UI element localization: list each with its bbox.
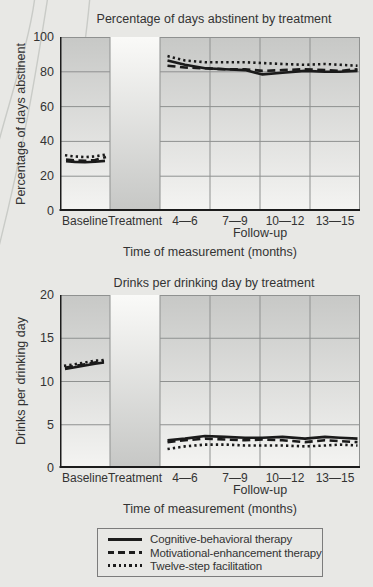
figure: Percentage of days abstinent by treatmen…	[0, 0, 373, 587]
y-tick-label: 0	[0, 461, 54, 475]
y-tick-label: 5	[0, 418, 54, 432]
y-tick-label: 20	[0, 169, 54, 183]
legend-label: Twelve-step facilitation	[150, 560, 262, 572]
y-tick-label: 60	[0, 100, 54, 114]
y-tick-label: 0	[0, 204, 54, 218]
y-tick-label: 80	[0, 65, 54, 79]
legend-item: Motivational-enhancement therapy	[108, 547, 322, 559]
y-tick-label: 100	[0, 30, 54, 44]
dotted-line-sample-icon	[108, 564, 142, 567]
chart-title: Drinks per drinking day by treatment	[58, 276, 370, 290]
y-tick-label: 20	[0, 288, 54, 302]
x-axis-label: Time of measurement (months)	[60, 245, 360, 259]
chart-title: Percentage of days abstinent by treatmen…	[58, 12, 370, 26]
legend-item: Cognitive-behavioral therapy	[108, 533, 322, 545]
followup-group-label: Follow-up	[160, 483, 360, 497]
y-tick-label: 15	[0, 331, 54, 345]
plot-area	[60, 37, 360, 211]
y-tick-label: 10	[0, 375, 54, 389]
legend-item: Twelve-step facilitation	[108, 560, 322, 572]
x-category-label: 13—15	[300, 214, 370, 228]
plot-area	[60, 295, 360, 468]
legend-label: Motivational-enhancement therapy	[150, 547, 322, 559]
y-tick-label: 40	[0, 134, 54, 148]
legend-label: Cognitive-behavioral therapy	[150, 533, 292, 545]
legend: Cognitive-behavioral therapy Motivationa…	[97, 528, 323, 577]
x-category-label: 13—15	[300, 471, 370, 485]
x-axis-label: Time of measurement (months)	[60, 502, 360, 516]
dashed-line-sample-icon	[108, 551, 142, 554]
followup-group-label: Follow-up	[160, 226, 360, 240]
solid-line-sample-icon	[108, 538, 142, 541]
